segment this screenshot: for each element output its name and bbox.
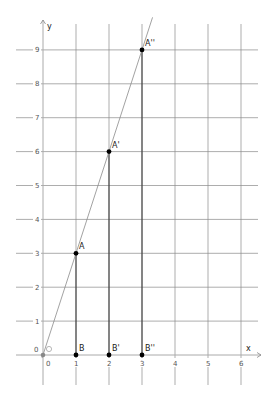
x-tick-label: 5 (206, 360, 210, 368)
x-tick-label: 0 (46, 360, 50, 368)
point-label: B'' (145, 344, 155, 353)
point-label: B (79, 344, 85, 353)
y-tick-label: 9 (35, 46, 39, 54)
x-tick-label: 1 (74, 360, 78, 368)
point-label: A (79, 242, 85, 251)
x-axis-label: x (246, 344, 251, 353)
point-label: B' (112, 344, 120, 353)
origin-label: 0 (34, 346, 38, 354)
x-tick-label: 3 (140, 360, 144, 368)
y-tick-label: 8 (35, 80, 39, 88)
point-bpp (140, 353, 145, 358)
point-b (74, 353, 79, 358)
coordinate-diagram: yx AA'A''BB'B'' 01234561234567890 (0, 0, 271, 408)
point-app (140, 48, 145, 53)
y-tick-label: 4 (35, 216, 40, 224)
point-ap (107, 149, 112, 154)
point-a (74, 251, 79, 256)
x-tick-label: 2 (107, 360, 111, 368)
origin-circle-marker (46, 346, 51, 351)
origin-point (41, 353, 46, 358)
y-tick-label: 6 (35, 148, 40, 156)
y-tick-label: 2 (35, 284, 39, 292)
y-tick-label: 7 (35, 114, 39, 122)
y-axis-label: y (47, 22, 52, 31)
x-tick-label: 6 (239, 360, 244, 368)
proportional-line (42, 17, 153, 358)
point-label: A' (112, 141, 120, 150)
point-label: A'' (145, 39, 155, 48)
point-bp (107, 353, 112, 358)
y-tick-label: 3 (35, 250, 39, 258)
y-tick-label: 5 (35, 182, 39, 190)
grid (16, 24, 258, 385)
tick-labels: 01234561234567890 (33, 46, 244, 368)
axes: yx (16, 20, 261, 385)
x-tick-label: 4 (173, 360, 178, 368)
y-tick-label: 1 (35, 318, 39, 326)
